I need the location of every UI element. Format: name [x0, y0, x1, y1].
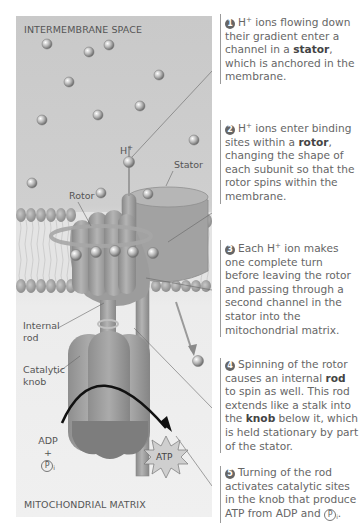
exit-arrow	[176, 302, 192, 351]
step-number-badge: 3	[225, 245, 235, 255]
step-4: 4Spinning of the rotor causes an interna…	[220, 358, 359, 453]
h-ion-label: H+	[120, 142, 133, 157]
phosphate-label: Pi	[36, 459, 60, 474]
step-2: 2H+ ions enter binding sites within a ro…	[220, 120, 359, 204]
stator-label: Stator	[174, 159, 203, 171]
atp-label: ATP	[156, 451, 172, 463]
step-number-badge: 1	[225, 19, 235, 29]
catalytic-knob-label: Catalyticknob	[23, 364, 65, 388]
step-number-badge: 5	[225, 469, 235, 479]
step-5: 5Turning of the rod activates catalytic …	[220, 466, 359, 523]
rotor-label: Rotor	[69, 190, 94, 202]
internal-rod-label: Internalrod	[23, 320, 60, 344]
step-number-badge: 2	[225, 125, 235, 135]
plus-label: +	[36, 447, 60, 459]
adp-label: ADP	[36, 435, 60, 447]
atp-synthase-diagram: INTERMEMBRANE SPACE MITOCHONDRIAL MATRIX…	[16, 16, 212, 517]
step-number-badge: 4	[225, 361, 235, 371]
reactants-label: ADP + Pi	[36, 435, 60, 474]
step-1: 1H+ ions flowing down their gradient ent…	[220, 14, 359, 84]
internal-rod	[98, 300, 118, 334]
mitochondrial-matrix-label: MITOCHONDRIAL MATRIX	[24, 499, 146, 510]
intermembrane-space-label: INTERMEMBRANE SPACE	[24, 24, 142, 35]
step-3: 3Each H+ ion makes one complete turn bef…	[220, 240, 359, 337]
